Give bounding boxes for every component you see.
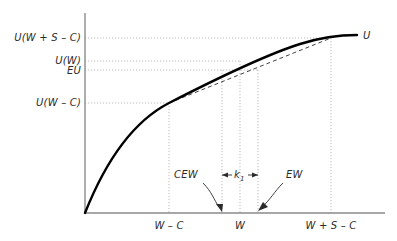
k1-right-arrowhead	[252, 173, 258, 178]
x-tick-label-w-minus-c: W – C	[139, 220, 199, 231]
curve-label-u: U	[363, 30, 371, 41]
utility-function-chart: U(W + S – C) U(W) EU U(W – C) W – C W W …	[0, 0, 397, 241]
ew-arrowhead	[258, 202, 268, 211]
x-tick-label-w-plus-s-minus-c: W + S – C	[291, 220, 371, 231]
chord-line	[169, 38, 331, 103]
y-tick-label-eu: EU	[67, 65, 81, 76]
y-tick-label-u-w-plus-s-minus-c: U(W + S – C)	[14, 32, 81, 43]
annotation-cew: CEW	[174, 169, 198, 180]
annotation-k1: k1	[234, 169, 245, 183]
y-tick-label-u-w-minus-c: U(W – C)	[36, 97, 81, 108]
cew-arrowhead	[216, 204, 223, 212]
ew-pointer-arrow	[263, 183, 283, 206]
annotation-k1-subscript: 1	[240, 175, 245, 183]
annotation-ew: EW	[286, 169, 303, 180]
cew-pointer-arrow	[203, 183, 219, 207]
k1-left-arrowhead	[222, 173, 228, 178]
utility-curve	[85, 35, 357, 213]
x-tick-label-w: W	[210, 220, 270, 231]
